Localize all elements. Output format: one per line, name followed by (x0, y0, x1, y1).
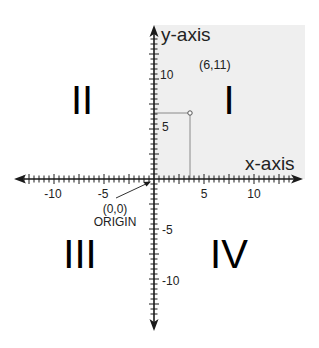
quadrant-4-label: IV (210, 232, 248, 276)
x-tick-label-neg10: -10 (44, 187, 62, 201)
x-tick-label-5: 5 (201, 187, 208, 201)
point-marker (188, 111, 192, 115)
coordinate-plane-svg: y-axis x-axis (6,11) -10 -5 5 10 10 5 -5… (0, 0, 319, 348)
y-tick-label-neg5: -5 (162, 223, 173, 237)
quadrant-2-label: II (71, 78, 93, 122)
point-label: (6,11) (199, 58, 231, 72)
origin-label: ORIGIN (94, 215, 137, 229)
y-tick-label-neg10: -10 (162, 274, 180, 288)
x-tick-label-neg5: -5 (98, 187, 109, 201)
quadrant-1-label: I (223, 78, 234, 122)
origin-pointer-line (116, 183, 148, 198)
y-tick-label-5: 5 (162, 120, 169, 134)
quadrant-3-label: III (63, 232, 96, 276)
origin-pointer-arrow-icon (144, 182, 152, 187)
x-tick-label-10: 10 (247, 187, 261, 201)
origin-coords-label: (0,0) (103, 202, 128, 216)
coordinate-plane-diagram: y-axis x-axis (6,11) -10 -5 5 10 10 5 -5… (0, 0, 319, 348)
y-axis-label: y-axis (161, 24, 211, 45)
y-tick-label-10: 10 (160, 68, 174, 82)
x-axis-label: x-axis (245, 153, 295, 174)
